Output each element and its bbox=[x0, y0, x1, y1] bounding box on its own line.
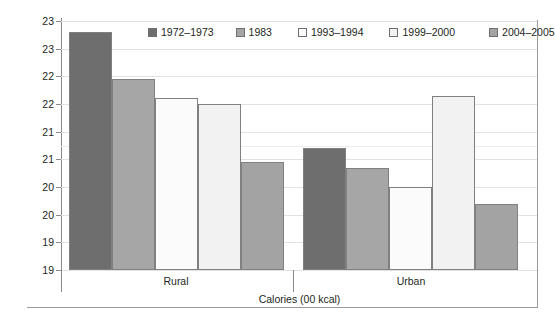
bar bbox=[241, 162, 284, 270]
y-axis-tick-label-text: 20 bbox=[28, 210, 54, 221]
legend: 1972–197319831993–19941999–20002004–2005 bbox=[148, 26, 555, 38]
legend-label: 1983 bbox=[249, 26, 272, 38]
bar bbox=[198, 104, 241, 270]
bars bbox=[61, 21, 537, 270]
legend-label: 1999–2000 bbox=[402, 26, 455, 38]
x-axis-title: Calories (00 kcal) bbox=[61, 293, 538, 305]
x-axis-category-label: Urban bbox=[361, 275, 461, 287]
y-axis-tick-label: 21 bbox=[0, 154, 54, 165]
y-axis-tick-label-text: 19 bbox=[28, 265, 54, 276]
category-separator-left bbox=[61, 270, 62, 292]
legend-swatch bbox=[148, 28, 157, 37]
y-axis-tick-label: 19 bbox=[0, 265, 54, 276]
legend-item: 2004–2005 bbox=[489, 26, 555, 38]
legend-item: 1972–1973 bbox=[148, 26, 214, 38]
y-axis-tick-label-text: 20 bbox=[28, 182, 54, 193]
category-separator bbox=[293, 270, 294, 292]
plot-area bbox=[61, 21, 537, 270]
y-axis-tick-label-text: 19 bbox=[28, 237, 54, 248]
legend-swatch bbox=[389, 28, 398, 37]
bar bbox=[69, 32, 112, 270]
legend-item: 1999–2000 bbox=[389, 26, 455, 38]
gridline bbox=[61, 270, 537, 271]
x-axis-category-label: Rural bbox=[126, 275, 226, 287]
legend-swatch bbox=[298, 28, 307, 37]
bar bbox=[346, 168, 389, 270]
y-axis-tick-label-text: 23 bbox=[28, 16, 54, 27]
y-axis-tick-label-text: 21 bbox=[28, 127, 54, 138]
legend-item: 1993–1994 bbox=[298, 26, 364, 38]
y-axis-tick-label: 19 bbox=[0, 237, 54, 248]
legend-swatch bbox=[236, 28, 245, 37]
bar bbox=[303, 148, 346, 270]
y-axis-tick-label: 23 bbox=[0, 44, 54, 55]
y-axis-tick-label: 22 bbox=[0, 99, 54, 110]
y-axis-tick-label-text: 23 bbox=[28, 44, 54, 55]
y-axis-tick-label-text: 22 bbox=[28, 99, 54, 110]
y-axis-tick-label: 23 bbox=[0, 16, 54, 27]
y-axis-tick-label-text: 21 bbox=[28, 154, 54, 165]
y-axis-tick-label-text: 22 bbox=[28, 71, 54, 82]
y-axis-tick-label: 20 bbox=[0, 210, 54, 221]
legend-swatch bbox=[489, 28, 498, 37]
bar bbox=[112, 79, 155, 270]
y-axis-tick-label: 20 bbox=[0, 182, 54, 193]
bar bbox=[389, 187, 432, 270]
legend-item: 1983 bbox=[236, 26, 272, 38]
legend-label: 2004–2005 bbox=[502, 26, 555, 38]
bar bbox=[432, 96, 475, 270]
legend-label: 1972–1973 bbox=[161, 26, 214, 38]
bar bbox=[155, 98, 198, 270]
bar bbox=[475, 204, 518, 270]
y-axis-tick-label: 21 bbox=[0, 127, 54, 138]
y-axis-tick-label: 22 bbox=[0, 71, 54, 82]
legend-label: 1993–1994 bbox=[311, 26, 364, 38]
